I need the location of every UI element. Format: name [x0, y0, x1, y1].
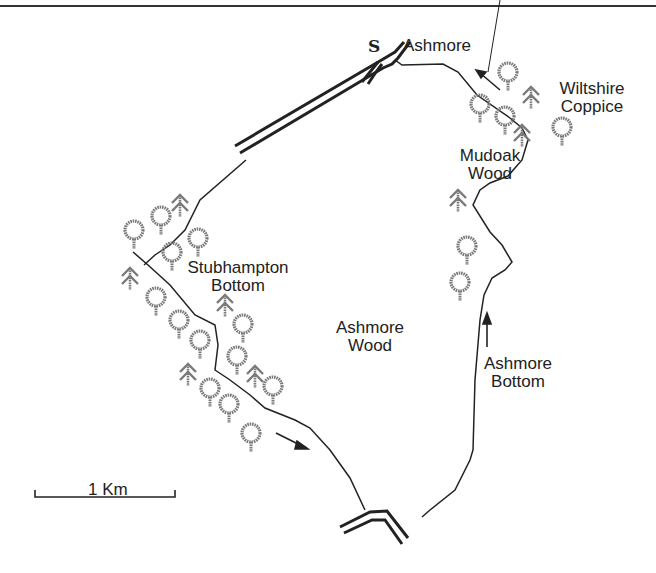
label-stubhampton-bottom-line1: Stubhampton: [183, 259, 293, 277]
label-ashmore-bottom-line2: Bottom: [478, 373, 558, 391]
label-mudoak-wood: Mudoak Wood: [452, 147, 528, 183]
label-wiltshire-coppice-line2: Coppice: [549, 98, 635, 116]
label-wiltshire-coppice: Wiltshire Coppice: [549, 80, 635, 116]
label-ashmore-text: Ashmore: [403, 36, 471, 55]
label-stubhampton-bottom: Stubhampton Bottom: [183, 259, 293, 295]
label-ashmore-wood: Ashmore Wood: [325, 319, 415, 355]
label-ashmore: Ashmore: [403, 37, 471, 55]
arrow-icon-southeast: [276, 433, 308, 449]
label-ashmore-wood-line2: Wood: [325, 337, 415, 355]
label-ashmore-wood-line1: Ashmore: [325, 319, 415, 337]
road-north: [235, 42, 410, 153]
label-mudoak-wood-line2: Wood: [452, 165, 528, 183]
start-marker: S: [368, 36, 380, 56]
arrow-icon-northwest: [476, 70, 500, 90]
label-ashmore-bottom: Ashmore Bottom: [478, 355, 558, 391]
scale-bar-label: 1 Km: [88, 480, 128, 500]
label-ashmore-bottom-line1: Ashmore: [478, 355, 558, 373]
label-stubhampton-bottom-line2: Bottom: [183, 277, 293, 295]
road-south: [340, 511, 408, 544]
label-wiltshire-coppice-line1: Wiltshire: [549, 80, 635, 98]
arrow-icon-east-route: [488, 0, 500, 72]
arrow-icon-north: [483, 313, 491, 347]
label-mudoak-wood-line1: Mudoak: [452, 147, 528, 165]
